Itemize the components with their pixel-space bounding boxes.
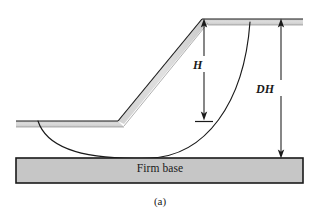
firm-base-label: Firm base <box>0 163 320 175</box>
slope-stability-figure: H DH Firm base (a) <box>0 0 320 218</box>
figure-caption: (a) <box>0 196 320 207</box>
slope-face-outer-line <box>118 19 202 121</box>
depth-factor-label: DH <box>256 83 274 95</box>
diagram-canvas <box>0 0 320 218</box>
dimension-DH-group <box>278 19 284 159</box>
soil-mass-group <box>16 19 303 127</box>
slope-height-label: H <box>193 59 203 71</box>
crest-surface-band <box>202 19 303 25</box>
slope-face-inner-line <box>124 23 208 126</box>
ground-surface-band <box>16 121 124 127</box>
